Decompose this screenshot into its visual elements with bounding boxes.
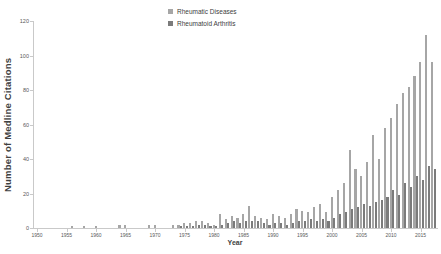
x-tick-label-1980: 1980 [208, 232, 219, 238]
bar-rheumatoid-arthritis-2007 [375, 202, 377, 228]
x-tick-label-1955: 1955 [61, 232, 72, 238]
bar-rheumatoid-arthritis-2016 [428, 166, 430, 228]
bar-rheumatoid-arthritis-1982 [227, 223, 229, 228]
y-tick-mark [30, 90, 33, 91]
bar-rheumatoid-arthritis-2002 [345, 212, 347, 228]
bar-rheumatic-diseases-1956 [71, 226, 73, 228]
x-tick-mark [37, 229, 38, 232]
x-tick-mark [155, 229, 156, 232]
x-tick-label-1975: 1975 [179, 232, 190, 238]
x-tick-mark [185, 229, 186, 232]
legend-item-rheumatic-diseases: Rheumatic Diseases [168, 8, 237, 15]
bar-rheumatoid-arthritis-1992 [286, 225, 288, 228]
x-tick-mark [332, 229, 333, 232]
y-tick-label-100: 100 [8, 53, 29, 59]
bar-rheumatoid-arthritis-2008 [381, 200, 383, 228]
bar-rheumatoid-arthritis-2010 [392, 190, 394, 228]
bar-rheumatoid-arthritis-1993 [292, 223, 294, 228]
bar-rheumatoid-arthritis-1995 [304, 221, 306, 228]
y-tick-label-120: 120 [8, 18, 29, 24]
x-tick-mark [303, 229, 304, 232]
legend-swatch-rheumatoid-arthritis [168, 21, 173, 26]
bar-rheumatoid-arthritis-1999 [327, 221, 329, 228]
bar-rheumatoid-arthritis-1975 [186, 226, 188, 228]
bar-rheumatoid-arthritis-2003 [351, 209, 353, 228]
y-tick-label-40: 40 [8, 156, 29, 162]
x-tick-mark [126, 229, 127, 232]
bar-rheumatoid-arthritis-1980 [215, 226, 217, 228]
bar-rheumatic-diseases-1970 [154, 225, 156, 228]
bar-rheumatoid-arthritis-1996 [310, 219, 312, 228]
bar-rheumatoid-arthritis-1990 [274, 223, 276, 228]
x-axis-title: Year [33, 239, 437, 246]
bar-rheumatoid-arthritis-1991 [280, 223, 282, 228]
bar-rheumatoid-arthritis-1994 [298, 221, 300, 228]
x-tick-label-1950: 1950 [31, 232, 42, 238]
bar-rheumatic-diseases-1960 [95, 226, 97, 228]
bar-rheumatoid-arthritis-1978 [204, 225, 206, 228]
y-tick-mark [30, 228, 33, 229]
plot-area [33, 21, 438, 229]
x-tick-mark [273, 229, 274, 232]
bar-rheumatoid-arthritis-2006 [369, 206, 371, 228]
bar-rheumatoid-arthritis-2017 [434, 169, 436, 228]
bar-rheumatic-diseases-1969 [148, 225, 150, 228]
x-tick-mark [421, 229, 422, 232]
y-tick-mark [30, 21, 33, 22]
y-tick-label-20: 20 [8, 191, 29, 197]
y-tick-mark [30, 125, 33, 126]
bar-rheumatoid-arthritis-1986 [251, 221, 253, 228]
bar-rheumatoid-arthritis-1985 [245, 221, 247, 228]
bar-rheumatoid-arthritis-1977 [198, 225, 200, 228]
bar-rheumatoid-arthritis-1998 [322, 219, 324, 228]
bar-rheumatoid-arthritis-2009 [386, 197, 388, 228]
bar-rheumatoid-arthritis-2005 [363, 204, 365, 228]
legend-item-rheumatoid-arthritis: Rheumatoid Arthritis [168, 20, 237, 27]
bar-rheumatoid-arthritis-1976 [192, 226, 194, 228]
x-tick-mark [214, 229, 215, 232]
bar-rheumatic-diseases-1973 [172, 225, 174, 228]
y-tick-mark [30, 194, 33, 195]
y-tick-mark [30, 56, 33, 57]
bar-rheumatoid-arthritis-2015 [422, 180, 424, 228]
bar-rheumatic-diseases-1958 [83, 226, 85, 228]
bar-rheumatoid-arthritis-2014 [416, 176, 418, 228]
bar-rheumatic-diseases-1964 [118, 225, 120, 228]
bar-rheumatoid-arthritis-2000 [333, 218, 335, 228]
x-tick-mark [391, 229, 392, 232]
x-tick-label-2000: 2000 [326, 232, 337, 238]
legend-label-rheumatic-diseases: Rheumatic Diseases [177, 8, 237, 15]
bar-rheumatoid-arthritis-2013 [410, 187, 412, 228]
x-tick-label-1985: 1985 [238, 232, 249, 238]
x-tick-mark [244, 229, 245, 232]
bar-rheumatoid-arthritis-1987 [257, 221, 259, 228]
bar-rheumatoid-arthritis-1979 [209, 226, 211, 228]
y-tick-mark [30, 159, 33, 160]
bar-rheumatoid-arthritis-1997 [316, 221, 318, 228]
bar-rheumatoid-arthritis-2011 [398, 195, 400, 228]
bar-rheumatoid-arthritis-2004 [357, 207, 359, 228]
x-tick-label-1995: 1995 [297, 232, 308, 238]
bar-rheumatoid-arthritis-1989 [268, 225, 270, 228]
bar-rheumatoid-arthritis-2012 [404, 183, 406, 228]
x-tick-label-2010: 2010 [385, 232, 396, 238]
y-tick-label-80: 80 [8, 87, 29, 93]
x-tick-label-1970: 1970 [149, 232, 160, 238]
x-tick-label-2005: 2005 [356, 232, 367, 238]
legend-label-rheumatoid-arthritis: Rheumatoid Arthritis [177, 20, 236, 27]
x-tick-mark [67, 229, 68, 232]
bar-rheumatoid-arthritis-1984 [239, 223, 241, 228]
x-tick-label-1960: 1960 [90, 232, 101, 238]
legend: Rheumatic Diseases Rheumatoid Arthritis [168, 8, 237, 27]
y-tick-label-0: 0 [8, 225, 29, 231]
x-tick-mark [362, 229, 363, 232]
x-tick-mark [96, 229, 97, 232]
bar-rheumatoid-arthritis-2001 [339, 214, 341, 228]
bar-rheumatoid-arthritis-1983 [233, 221, 235, 228]
bar-rheumatoid-arthritis-1981 [221, 225, 223, 228]
medline-citations-bar-chart: Number of Medline Citations Rheumatic Di… [0, 0, 441, 254]
bar-rheumatoid-arthritis-1974 [180, 226, 182, 228]
bar-rheumatoid-arthritis-1988 [263, 223, 265, 228]
bar-rheumatic-diseases-1965 [124, 225, 126, 228]
x-tick-label-1990: 1990 [267, 232, 278, 238]
